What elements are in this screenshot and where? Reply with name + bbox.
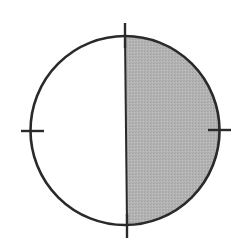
shaded-right-half [125,36,221,225]
moon-phase-diagram [0,0,244,247]
diagram-canvas [0,0,244,247]
